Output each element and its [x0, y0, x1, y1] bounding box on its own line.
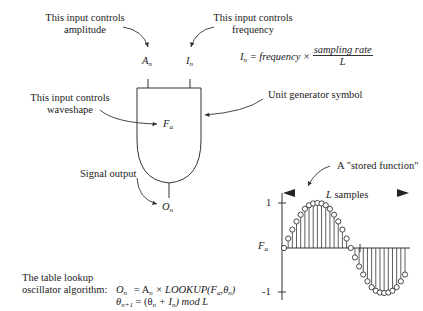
formula-numerator: sampling rate [313, 44, 373, 56]
sample-point [394, 285, 399, 290]
amplitude-label-line2: amplitude [40, 24, 130, 36]
frequency-label-line1: This input controls [203, 12, 303, 24]
amplitude-label-line1: This input controls [40, 12, 130, 24]
stored-function-label: A "stored function" [337, 160, 418, 172]
frequency-label-line2: frequency [203, 24, 303, 36]
sample-point [286, 236, 291, 241]
sample-point [331, 212, 336, 217]
sample-point [361, 272, 366, 277]
sample-point [281, 245, 286, 250]
algorithm-label-line1: The table lookup [22, 272, 107, 284]
unit-generator-symbol [137, 79, 201, 198]
sample-point [348, 245, 353, 250]
stored-function-arrow [308, 166, 330, 186]
signal-output-label: Signal output [80, 168, 136, 180]
y-tick-top: 1 [266, 197, 271, 209]
sample-point [298, 212, 303, 217]
sample-point [294, 219, 299, 224]
signal-output-arrow [137, 178, 157, 204]
waveform-plot [278, 189, 410, 300]
samples-text: samples [332, 189, 368, 200]
amplitude-annotation: This input controls amplitude [40, 12, 130, 36]
sample-point [398, 279, 403, 284]
waveshape-label-line1: This input controls [25, 92, 115, 104]
sample-point [344, 236, 349, 241]
formula-denominator: L [313, 56, 373, 67]
sample-point [365, 279, 370, 284]
sample-point [336, 219, 341, 224]
unit-generator-arrow [205, 99, 263, 115]
waveshape-label-line2: waveshape [25, 104, 115, 116]
y-axis-label: Fa [258, 240, 268, 253]
y-tick-bottom: -1 [262, 286, 271, 298]
frequency-formula: In = frequency × sampling rate L [240, 48, 373, 67]
algorithm-label: The table lookup oscillator algorithm: [22, 272, 107, 296]
sample-point [352, 255, 357, 260]
waveshape-symbol: Fa [163, 118, 173, 131]
output-symbol: On [162, 201, 173, 214]
algorithm-equation-2: θn+1 = (θn + In) mod L [116, 296, 208, 309]
sample-point [357, 264, 362, 269]
sample-point [340, 227, 345, 232]
input-amplitude-symbol: An [142, 55, 152, 68]
sample-point [327, 206, 332, 211]
sample-point [290, 227, 295, 232]
unit-generator-label: Unit generator symbol [268, 89, 362, 101]
algorithm-label-line2: oscillator algorithm: [22, 284, 107, 296]
waveshape-annotation: This input controls waveshape [25, 92, 115, 116]
frequency-annotation: This input controls frequency [203, 12, 303, 36]
samples-label: L samples [326, 189, 368, 201]
input-frequency-symbol: In [186, 55, 193, 68]
sample-point [402, 272, 407, 277]
